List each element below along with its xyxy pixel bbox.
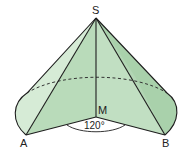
angle-label: 120° <box>84 120 105 131</box>
label-A: A <box>20 137 28 149</box>
cone-sector-diagram: S M A B 120° <box>0 0 188 155</box>
label-M: M <box>98 104 107 116</box>
label-B: B <box>162 137 169 149</box>
label-S: S <box>92 4 99 16</box>
